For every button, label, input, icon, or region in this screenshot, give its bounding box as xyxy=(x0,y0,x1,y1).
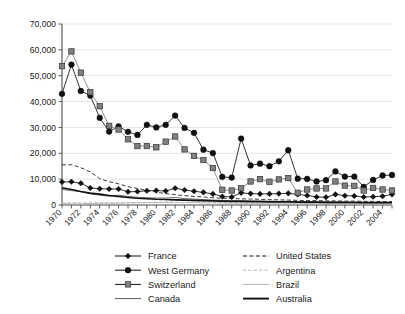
datapoint-west-germany-1980 xyxy=(153,125,159,131)
datapoint-west-germany-1984 xyxy=(191,130,197,136)
datapoint-switzerland-1972 xyxy=(78,70,83,75)
legend-label-france: France xyxy=(148,251,177,261)
datapoint-west-germany-2005 xyxy=(389,172,395,178)
y-tick-label-40000: 40,000 xyxy=(30,97,57,107)
datapoint-west-germany-1993 xyxy=(276,158,282,164)
datapoint-switzerland-1986 xyxy=(210,165,215,170)
datapoint-switzerland-1995 xyxy=(295,190,300,195)
datapoint-switzerland-1992 xyxy=(267,179,272,184)
datapoint-switzerland-1987 xyxy=(220,187,225,192)
y-tick-label-50000: 50,000 xyxy=(30,71,57,81)
legend-marker-switzerland xyxy=(125,282,130,287)
chart-figure: 010,00020,00030,00040,00050,00060,00070,… xyxy=(0,0,405,314)
y-tick-label-30000: 30,000 xyxy=(30,123,57,133)
legend-marker-west-germany xyxy=(125,267,131,273)
datapoint-west-germany-1990 xyxy=(248,163,254,169)
datapoint-west-germany-2001 xyxy=(351,174,357,180)
datapoint-west-germany-1988 xyxy=(229,175,235,181)
datapoint-west-germany-1985 xyxy=(201,147,207,153)
datapoint-west-germany-1983 xyxy=(182,125,188,131)
datapoint-west-germany-1971 xyxy=(69,62,75,68)
legend-label-canada: Canada xyxy=(148,294,181,304)
datapoint-switzerland-1982 xyxy=(172,134,177,139)
datapoint-switzerland-2003 xyxy=(370,185,375,190)
datapoint-switzerland-1989 xyxy=(238,185,243,190)
datapoint-switzerland-2004 xyxy=(380,187,385,192)
datapoint-west-germany-1991 xyxy=(257,161,263,167)
datapoint-switzerland-1978 xyxy=(135,143,140,148)
datapoint-west-germany-1998 xyxy=(323,177,329,183)
datapoint-switzerland-1994 xyxy=(286,175,291,180)
y-tick-label-60000: 60,000 xyxy=(30,45,57,55)
datapoint-switzerland-1971 xyxy=(69,49,74,54)
datapoint-switzerland-1990 xyxy=(248,179,253,184)
datapoint-switzerland-1993 xyxy=(276,177,281,182)
datapoint-switzerland-1970 xyxy=(59,63,64,68)
y-tick-label-10000: 10,000 xyxy=(30,174,57,184)
datapoint-switzerland-1977 xyxy=(125,137,130,142)
datapoint-west-germany-1986 xyxy=(210,150,216,156)
datapoint-switzerland-1985 xyxy=(201,157,206,162)
datapoint-west-germany-2000 xyxy=(342,174,348,180)
y-tick-label-70000: 70,000 xyxy=(30,19,57,29)
datapoint-west-germany-1999 xyxy=(333,168,339,174)
datapoint-switzerland-1979 xyxy=(144,143,149,148)
datapoint-west-germany-1970 xyxy=(59,91,65,97)
datapoint-switzerland-1991 xyxy=(257,176,262,181)
datapoint-west-germany-2003 xyxy=(370,177,376,183)
datapoint-west-germany-1981 xyxy=(163,122,169,128)
datapoint-switzerland-1988 xyxy=(229,188,234,193)
datapoint-switzerland-2002 xyxy=(361,188,366,193)
datapoint-west-germany-1992 xyxy=(267,163,273,169)
datapoint-switzerland-1984 xyxy=(191,153,196,158)
datapoint-west-germany-1987 xyxy=(219,174,225,180)
legend-label-united-states: United States xyxy=(276,251,332,261)
datapoint-west-germany-1989 xyxy=(238,136,244,142)
datapoint-west-germany-1979 xyxy=(144,122,150,128)
line-chart: 010,00020,00030,00040,00050,00060,00070,… xyxy=(0,0,405,314)
datapoint-switzerland-1976 xyxy=(116,127,121,132)
datapoint-switzerland-1998 xyxy=(323,186,328,191)
datapoint-west-germany-1977 xyxy=(125,129,131,135)
y-tick-label-20000: 20,000 xyxy=(30,148,57,158)
legend-label-brazil: Brazil xyxy=(276,280,299,290)
datapoint-switzerland-1973 xyxy=(88,90,93,95)
datapoint-west-germany-2004 xyxy=(380,173,386,179)
datapoint-west-germany-1994 xyxy=(285,147,291,153)
datapoint-west-germany-1974 xyxy=(97,115,103,121)
legend-label-west-germany: West Germany xyxy=(148,266,210,276)
legend-label-argentina: Argentina xyxy=(276,266,316,276)
datapoint-west-germany-1996 xyxy=(304,176,310,182)
datapoint-switzerland-1974 xyxy=(97,104,102,109)
datapoint-switzerland-1997 xyxy=(314,186,319,191)
datapoint-switzerland-1975 xyxy=(106,123,111,128)
datapoint-west-germany-1978 xyxy=(135,132,141,138)
legend-label-australia: Australia xyxy=(276,294,313,304)
datapoint-west-germany-1997 xyxy=(314,179,320,185)
datapoint-switzerland-2000 xyxy=(342,183,347,188)
datapoint-west-germany-1982 xyxy=(172,113,178,119)
datapoint-switzerland-1983 xyxy=(182,147,187,152)
datapoint-switzerland-1980 xyxy=(154,145,159,150)
datapoint-west-germany-1995 xyxy=(295,176,301,182)
datapoint-switzerland-2005 xyxy=(389,188,394,193)
datapoint-switzerland-1996 xyxy=(304,187,309,192)
datapoint-switzerland-2001 xyxy=(352,183,357,188)
legend-label-switzerland: Switzerland xyxy=(148,280,196,290)
datapoint-switzerland-1981 xyxy=(163,139,168,144)
datapoint-switzerland-1999 xyxy=(333,179,338,184)
datapoint-west-germany-1975 xyxy=(106,129,112,135)
datapoint-west-germany-1972 xyxy=(78,88,84,94)
